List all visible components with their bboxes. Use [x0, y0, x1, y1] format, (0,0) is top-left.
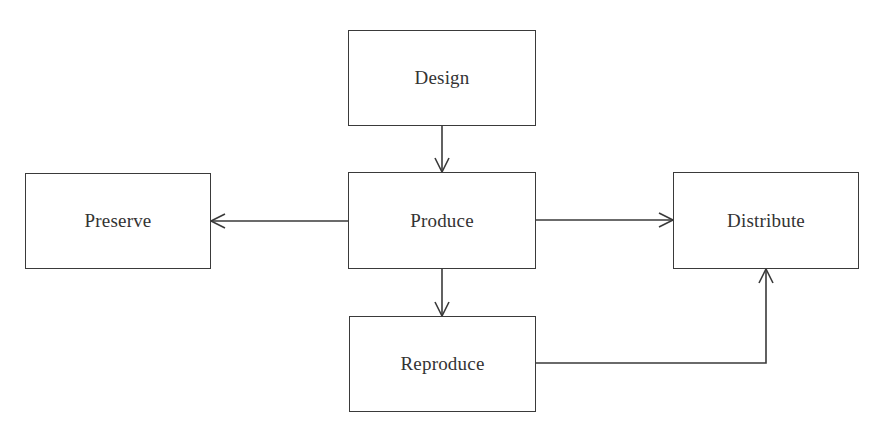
node-distribute: Distribute — [673, 172, 859, 269]
flowchart-diagram: Design Produce Preserve Distribute Repro… — [0, 0, 886, 439]
node-produce: Produce — [348, 172, 536, 269]
node-label-distribute: Distribute — [727, 210, 805, 232]
edge-produce-to-preserve — [211, 214, 348, 228]
node-label-produce: Produce — [410, 210, 474, 232]
edge-produce-to-distribute — [536, 213, 673, 227]
node-label-preserve: Preserve — [84, 210, 151, 232]
node-reproduce: Reproduce — [349, 316, 536, 412]
arrowhead-left-icon — [211, 214, 225, 228]
node-preserve: Preserve — [25, 173, 211, 269]
arrowhead-down-icon — [435, 302, 449, 316]
arrowhead-right-icon — [659, 213, 673, 227]
node-label-design: Design — [414, 67, 469, 89]
edge-design-to-produce — [435, 126, 449, 172]
arrowhead-up-icon — [759, 269, 773, 283]
arrowhead-down-icon — [435, 158, 449, 172]
node-label-reproduce: Reproduce — [400, 353, 484, 375]
node-design: Design — [348, 30, 536, 126]
edge-reproduce-to-distribute — [536, 269, 773, 363]
edge-produce-to-reproduce — [435, 269, 449, 316]
